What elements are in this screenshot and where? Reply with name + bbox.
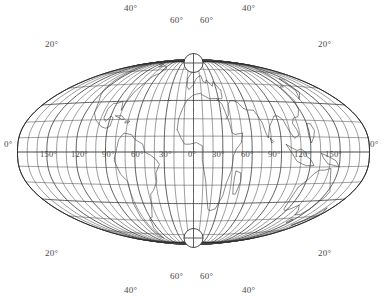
label-corner-20-top-left: 20° (45, 40, 58, 49)
coastline-path (284, 168, 331, 214)
label-corner-20-bottom-right: 20° (318, 249, 331, 258)
label-lon-90-w: 90° (102, 150, 115, 159)
label-equator-right-edge: 0° (370, 140, 379, 149)
world-map-figure: 40° 60° 60° 40° 60° 60° 40° 40° 20° 20° … (0, 0, 387, 305)
coastline-path (226, 62, 299, 138)
coastline-path (187, 76, 222, 99)
label-bottom-60-left: 60° (170, 272, 183, 281)
label-lon-150-e: 150° (325, 150, 342, 159)
label-bottom-60-right: 60° (200, 272, 213, 281)
label-top-60-right: 60° (200, 16, 213, 25)
label-lon-120-w: 120° (71, 150, 88, 159)
label-lon-60-e: 60° (241, 150, 254, 159)
label-corner-20-bottom-left: 20° (45, 249, 58, 258)
label-top-40-right: 40° (242, 4, 255, 13)
label-equator-left-edge: 0° (4, 140, 13, 149)
label-lon-60-w: 60° (131, 150, 144, 159)
label-top-40-left: 40° (124, 4, 137, 13)
label-lon-120-e: 120° (294, 150, 311, 159)
label-bottom-40-left: 40° (124, 286, 137, 295)
coastline-path (125, 121, 130, 123)
label-top-60-left: 60° (170, 16, 183, 25)
label-lon-90-e: 90° (268, 150, 281, 159)
label-lon-30-e: 30° (212, 150, 225, 159)
coastline-path (233, 171, 241, 194)
label-corner-20-top-right: 20° (318, 40, 331, 49)
label-lon-30-w: 30° (159, 150, 172, 159)
label-bottom-40-right: 40° (242, 286, 255, 295)
label-lon-150-w: 150° (40, 150, 57, 159)
label-lon-0: 0° (188, 150, 196, 159)
coastline-path (270, 138, 273, 143)
